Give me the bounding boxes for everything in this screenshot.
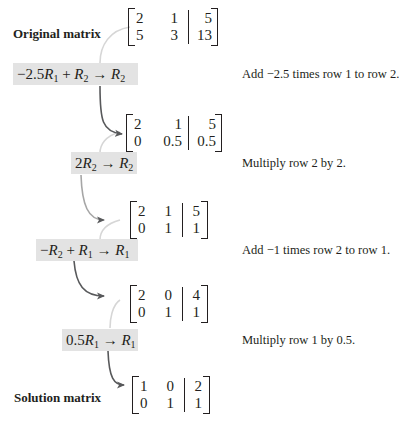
cell: 5 [136, 27, 148, 44]
cell: 1 [158, 10, 178, 27]
cell: 0.5 [190, 133, 216, 150]
cell: 1 [140, 378, 152, 395]
row-operation-1: −2.5R1 + R2 → R2 [13, 63, 138, 85]
step-description-2: Multiply row 2 by 2. [242, 156, 346, 171]
solution-matrix-label: Solution matrix [14, 390, 101, 406]
cell: 0 [140, 395, 152, 412]
step-description-3: Add −1 times row 2 to row 1. [242, 243, 390, 258]
arrow-step-1 [100, 86, 122, 134]
cell: 1 [158, 203, 172, 220]
cell: 1 [186, 304, 200, 321]
cell: 3 [158, 27, 178, 44]
cell: 13 [192, 27, 212, 44]
row-operation-2: 2R2 → R2 [71, 152, 137, 174]
connector-light-3 [100, 220, 120, 240]
connector-light-2 [100, 132, 120, 153]
cell: 2 [134, 116, 146, 133]
cell: 2 [138, 287, 150, 304]
step-description-4: Multiply row 1 by 0.5. [242, 333, 355, 348]
connector-light-4 [110, 300, 120, 328]
arrow-step-2 [81, 175, 104, 220]
matrix-step-2: 2 1 5 0 1 1 [130, 201, 208, 239]
cell: 0 [138, 304, 150, 321]
cell: 5 [192, 10, 212, 27]
cell: 2 [188, 378, 202, 395]
matrix-original: 2 1 5 5 3 13 [128, 8, 218, 46]
cell: 5 [190, 116, 216, 133]
matrix-solution: 1 0 2 0 1 1 [132, 376, 210, 414]
arrow-step-3 [74, 261, 104, 296]
cell: 1 [158, 220, 172, 237]
cell: 1 [186, 220, 200, 237]
original-matrix-label: Original matrix [13, 26, 101, 42]
cell: 4 [186, 287, 200, 304]
cell: 0 [134, 133, 146, 150]
step-description-1: Add −2.5 times row 1 to row 2. [242, 67, 399, 82]
matrix-step-3: 2 0 4 0 1 1 [130, 285, 208, 323]
cell: 0 [138, 220, 150, 237]
arrow-step-4 [108, 351, 124, 385]
cell: 0.5 [156, 133, 182, 150]
row-operation-4: 0.5R1 → R1 [62, 329, 138, 351]
cell: 1 [158, 304, 172, 321]
cell: 5 [186, 203, 200, 220]
cell: 1 [188, 395, 202, 412]
cell: 1 [156, 116, 182, 133]
connector-light-1 [100, 27, 130, 63]
cell: 1 [160, 395, 174, 412]
matrix-step-1: 2 1 5 0 0.5 0.5 [126, 114, 222, 152]
cell: 2 [136, 10, 148, 27]
cell: 2 [138, 203, 150, 220]
row-operation-3: −R2 + R1 → R1 [36, 239, 138, 261]
cell: 0 [160, 378, 174, 395]
cell: 0 [158, 287, 172, 304]
